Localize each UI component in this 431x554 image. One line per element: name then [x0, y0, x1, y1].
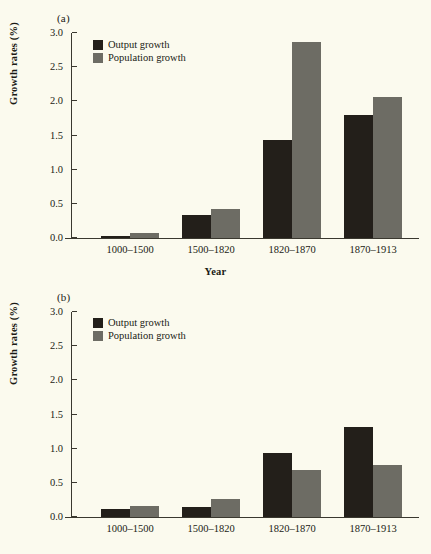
legend-swatch-population-icon [93, 53, 103, 63]
bar-output-growth [344, 115, 373, 238]
y-tick-label-a-5: 2.5 [50, 61, 63, 72]
bar-population-growth [211, 209, 240, 238]
bar-population-growth [292, 470, 321, 517]
bar-group: 1820–1870 [253, 33, 331, 238]
y-tick-a-5 [72, 66, 77, 67]
x-tick-label: 1820–1870 [253, 523, 331, 534]
bar-output-growth [263, 453, 292, 517]
bar-output-growth [101, 509, 130, 517]
y-tick-a-4 [72, 100, 77, 101]
y-tick-label-b-1: 0.5 [50, 476, 63, 487]
bar-population-growth [373, 465, 402, 517]
legend-b: Output growth Population growth [93, 316, 186, 342]
figure-two-panel-bar-chart: (a) Growth rates (%) 0.0 0.5 1.0 1.5 [0, 0, 431, 554]
legend-label-output-growth: Output growth [108, 39, 170, 50]
y-tick-b-4 [72, 379, 77, 380]
legend-label-population-growth: Population growth [108, 330, 186, 341]
plot-area-a: 0.0 0.5 1.0 1.5 2.0 2.5 3.0 [71, 33, 419, 238]
y-tick-a-6 [72, 32, 77, 33]
x-tick-label: 1820–1870 [253, 244, 331, 255]
y-tick-label-b-0: 0.0 [50, 511, 63, 522]
y-axis-line-b [71, 312, 72, 517]
x-axis-label-a: Year [0, 266, 431, 277]
x-tick-label: 1500–1820 [172, 244, 250, 255]
y-tick-label-a-1: 0.5 [50, 197, 63, 208]
bar-group: 1820–1870 [253, 312, 331, 517]
legend-label-population-growth: Population growth [108, 52, 186, 63]
bar-output-growth [344, 427, 373, 517]
x-tick-label: 1870–1913 [334, 523, 412, 534]
bar-population-growth [130, 506, 159, 517]
x-tick-label: 1000–1500 [91, 244, 169, 255]
legend-item-output-growth: Output growth [93, 38, 186, 51]
panel-label-a: (a) [57, 12, 70, 24]
legend-a: Output growth Population growth [93, 38, 186, 64]
x-axis-line-a [65, 238, 419, 239]
bar-group: 1870–1913 [334, 312, 412, 517]
y-tick-b-6 [72, 311, 77, 312]
panel-label-b: (b) [57, 291, 70, 303]
y-tick-label-a-2: 1.0 [50, 163, 63, 174]
bar-population-growth [292, 42, 321, 238]
bar-output-growth [263, 140, 292, 238]
legend-item-population-growth: Population growth [93, 329, 186, 342]
y-tick-b-2 [72, 448, 77, 449]
y-tick-label-b-4: 2.0 [50, 374, 63, 385]
bar-output-growth [182, 215, 211, 238]
legend-swatch-population-icon [93, 331, 103, 341]
legend-swatch-output-icon [93, 318, 103, 328]
legend-label-output-growth: Output growth [108, 317, 170, 328]
y-tick-b-1 [72, 482, 77, 483]
bar-population-growth [373, 97, 402, 238]
bar-group: 1000–1500 [91, 312, 169, 517]
y-tick-label-a-6: 3.0 [50, 27, 63, 38]
y-tick-label-b-5: 2.5 [50, 340, 63, 351]
y-axis-line-a [71, 33, 72, 238]
x-tick-label: 1870–1913 [334, 244, 412, 255]
bar-output-growth [182, 507, 211, 517]
y-tick-b-5 [72, 345, 77, 346]
chart-panel-a: (a) Growth rates (%) 0.0 0.5 1.0 1.5 [0, 0, 431, 280]
y-tick-label-a-4: 2.0 [50, 95, 63, 106]
plot-area-b: 0.0 0.5 1.0 1.5 2.0 2.5 3.0 [71, 312, 419, 517]
x-tick-label: 1000–1500 [91, 523, 169, 534]
legend-item-output-growth: Output growth [93, 316, 186, 329]
bar-population-growth [130, 233, 159, 238]
y-tick-label-b-2: 1.0 [50, 442, 63, 453]
legend-item-population-growth: Population growth [93, 51, 186, 64]
y-axis-label-b: Growth rates (%) [8, 289, 19, 399]
y-tick-a-2 [72, 169, 77, 170]
x-axis-line-b [65, 517, 419, 518]
y-tick-label-a-3: 1.5 [50, 129, 63, 140]
chart-panel-b: (b) Growth rates (%) 0.0 0.5 1.0 1.5 [0, 280, 431, 554]
bar-group: 1870–1913 [334, 33, 412, 238]
y-axis-label-a: Growth rates (%) [8, 9, 19, 119]
bar-population-growth [211, 499, 240, 517]
y-tick-a-3 [72, 135, 77, 136]
x-tick-label: 1500–1820 [172, 523, 250, 534]
y-tick-a-1 [72, 203, 77, 204]
y-tick-label-b-3: 1.5 [50, 408, 63, 419]
bar-group: 1500–1820 [172, 312, 250, 517]
y-tick-a-0 [72, 237, 77, 238]
y-tick-b-0 [72, 516, 77, 517]
legend-swatch-output-icon [93, 40, 103, 50]
bar-output-growth [101, 236, 130, 238]
y-tick-label-b-6: 3.0 [50, 306, 63, 317]
y-tick-b-3 [72, 414, 77, 415]
y-tick-label-a-0: 0.0 [50, 232, 63, 243]
